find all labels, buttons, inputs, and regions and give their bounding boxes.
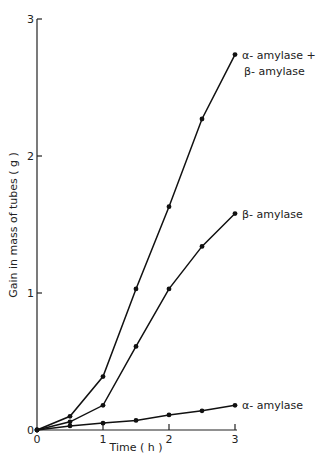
x-axis-label: Time ( h ) (109, 441, 163, 454)
y-tick-label: 1 (27, 287, 34, 300)
data-point (68, 414, 73, 419)
x-tick-label: 1 (100, 433, 107, 446)
x-tick-label: 0 (34, 433, 41, 446)
series-label: α- amylase (242, 399, 303, 412)
data-point (101, 421, 106, 426)
y-tick-label: 3 (27, 13, 34, 26)
data-point (68, 423, 73, 428)
data-point (233, 403, 238, 408)
x-tick-label: 2 (166, 433, 173, 446)
data-point (134, 418, 139, 423)
line-chart: 01230123 α- amylase +β- amylaseβ- amylas… (0, 0, 324, 463)
series-0: α- amylase +β- amylase (35, 49, 316, 433)
series-label: β- amylase (244, 65, 305, 78)
axes: 01230123 (27, 13, 239, 446)
series-group: α- amylase +β- amylaseβ- amylaseα- amyla… (35, 49, 316, 433)
data-point (101, 403, 106, 408)
data-point (200, 244, 205, 249)
x-tick-label: 3 (232, 433, 239, 446)
y-axis-label: Gain in mass of tubes ( g ) (7, 152, 20, 298)
series-label: α- amylase + (242, 49, 316, 62)
data-point (35, 428, 40, 433)
series-label: β- amylase (242, 208, 303, 221)
data-point (167, 204, 172, 209)
data-point (233, 52, 238, 57)
series-line (37, 214, 235, 431)
data-point (68, 419, 73, 424)
data-point (167, 413, 172, 418)
data-point (134, 344, 139, 349)
data-point (101, 374, 106, 379)
data-point (134, 286, 139, 291)
data-point (200, 117, 205, 122)
y-tick-label: 2 (27, 150, 34, 163)
data-point (167, 286, 172, 291)
data-point (233, 211, 238, 216)
data-point (200, 408, 205, 413)
